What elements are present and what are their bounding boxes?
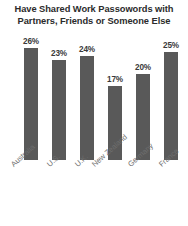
bar-value-france: 25% — [156, 41, 186, 50]
bar-value-us: 23% — [44, 49, 74, 58]
bar-value-new-zealand: 17% — [100, 75, 130, 84]
bar-uk[interactable] — [80, 56, 94, 160]
bar-chart: Have Shared Work Passowords with Partner… — [0, 0, 188, 226]
x-axis-labels: Australia U.S. U.K. New Zealand Germany … — [0, 162, 188, 226]
bar-us[interactable] — [52, 60, 66, 160]
bar-group-uk: 24% — [74, 0, 100, 162]
bar-group-australia: 26% — [18, 0, 44, 162]
bar-value-uk: 24% — [72, 45, 102, 54]
bar-value-australia: 26% — [16, 37, 46, 46]
bar-france[interactable] — [164, 52, 178, 160]
bar-group-us: 23% — [46, 0, 72, 162]
plot-area: 26% 23% 24% 17% 20% 25% — [0, 0, 188, 162]
bar-group-germany: 20% — [130, 0, 156, 162]
bar-group-france: 25% — [158, 0, 184, 162]
bar-value-germany: 20% — [128, 63, 158, 72]
